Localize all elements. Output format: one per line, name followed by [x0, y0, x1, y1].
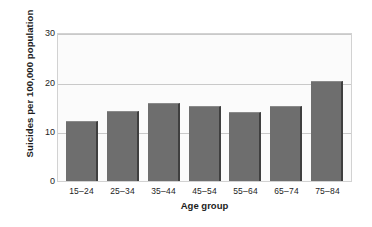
plot-area: [57, 33, 352, 182]
x-tick-label-65-74: 65–74: [266, 186, 307, 196]
bar-chart-figure: Suicides per 100,000 population 30 20 10…: [0, 0, 372, 227]
bar-slot: [143, 34, 184, 181]
y-tick-label-10: 10: [33, 127, 55, 137]
bar-slot: [103, 34, 144, 181]
x-tick-label-45-54: 45–54: [184, 186, 225, 196]
x-tick-label-55-64: 55–64: [225, 186, 266, 196]
bar-65-74: [270, 106, 302, 181]
x-tick-label-25-34: 25–34: [102, 186, 143, 196]
bar-slot: [184, 34, 225, 181]
bar-slot: [306, 34, 347, 181]
bar-slot: [62, 34, 103, 181]
y-tick-label-0: 0: [33, 176, 55, 186]
x-tick-label-35-44: 35–44: [143, 186, 184, 196]
bar-55-64: [229, 112, 261, 181]
bar-15-24: [66, 121, 98, 181]
y-axis-tick-labels: 30 20 10 0: [30, 0, 55, 227]
x-tick-label-75-84: 75–84: [307, 186, 348, 196]
bar-75-84: [311, 81, 343, 181]
bar-series: [58, 34, 351, 181]
y-tick-label-30: 30: [33, 28, 55, 38]
bar-35-44: [148, 103, 180, 181]
x-tick-label-15-24: 15–24: [61, 186, 102, 196]
bar-25-34: [107, 111, 139, 181]
bar-slot: [225, 34, 266, 181]
bar-45-54: [189, 106, 221, 181]
bar-slot: [266, 34, 307, 181]
y-tick-label-20: 20: [33, 78, 55, 88]
x-axis-tick-labels: 15–24 25–34 35–44 45–54 55–64 65–74 75–8…: [57, 186, 352, 196]
x-axis-title: Age group: [57, 200, 352, 211]
